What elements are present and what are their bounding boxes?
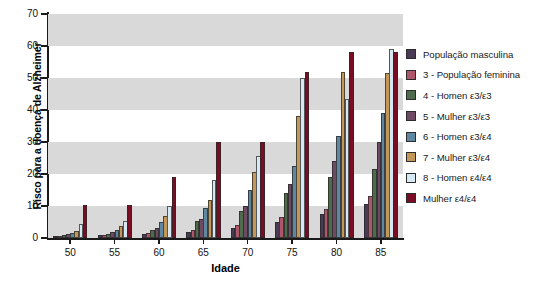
legend-item: Mulher ε4/ε4 xyxy=(406,188,545,209)
y-axis-tick-label: 0 xyxy=(0,232,38,243)
legend-label: 7 - Mulher ε3/ε4 xyxy=(423,152,490,163)
legend-item: 4 - Homen ε3/ε3 xyxy=(406,85,545,106)
bar xyxy=(127,205,132,238)
y-axis-tick-label: 30 xyxy=(0,136,38,147)
legend-item: 8 - Homen ε4/ε4 xyxy=(406,168,545,189)
x-axis-tick-label: 80 xyxy=(321,247,351,258)
legend-swatch xyxy=(406,152,416,162)
legend-item: 5 - Mulher ε3/ε3 xyxy=(406,106,545,127)
bar xyxy=(216,142,221,238)
x-axis-tick-label: 50 xyxy=(55,247,85,258)
y-axis-tick xyxy=(41,77,47,79)
x-axis-tick xyxy=(203,238,205,244)
bar xyxy=(305,72,310,238)
legend-label: População masculina xyxy=(423,49,513,60)
bar-group xyxy=(98,14,132,238)
bar xyxy=(349,52,354,238)
y-axis-tick-label: 40 xyxy=(0,104,38,115)
y-axis-tick xyxy=(41,173,47,175)
bar xyxy=(83,205,88,238)
bar-group xyxy=(53,14,87,238)
legend-item: 7 - Mulher ε3/ε4 xyxy=(406,147,545,168)
x-axis-tick-label: 70 xyxy=(233,247,263,258)
bar-group xyxy=(364,14,398,238)
x-axis-tick xyxy=(158,238,160,244)
bar-group xyxy=(186,14,220,238)
bar-group xyxy=(320,14,354,238)
bar-group xyxy=(275,14,309,238)
legend-swatch xyxy=(406,111,416,121)
x-axis-tick xyxy=(336,238,338,244)
x-axis-tick-label: 85 xyxy=(366,247,396,258)
legend-label: 5 - Mulher ε3/ε3 xyxy=(423,111,490,122)
y-axis-tick-label: 10 xyxy=(0,200,38,211)
legend-swatch xyxy=(406,173,416,183)
x-axis-tick xyxy=(291,238,293,244)
y-axis-tick-label: 60 xyxy=(0,40,38,51)
y-axis-tick xyxy=(41,109,47,111)
legend-swatch xyxy=(406,132,416,142)
alzheimer-risk-bar-chart: Risco para a doença de Alzheimer 0102030… xyxy=(0,0,545,284)
y-axis-tick-label: 50 xyxy=(0,72,38,83)
legend-swatch xyxy=(406,90,416,100)
y-axis-tick xyxy=(41,237,47,239)
x-axis-tick xyxy=(114,238,116,244)
legend-swatch xyxy=(406,193,416,203)
x-axis-tick-label: 55 xyxy=(100,247,130,258)
x-axis-tick xyxy=(69,238,71,244)
legend-item: 6 - Homen ε3/ε4 xyxy=(406,126,545,147)
x-axis-tick xyxy=(380,238,382,244)
legend-swatch xyxy=(406,49,416,59)
x-axis-title: Idade xyxy=(48,262,403,274)
legend-label: 8 - Homen ε4/ε4 xyxy=(423,172,492,183)
legend-item: 3 - População feminina xyxy=(406,65,545,86)
y-axis-tick xyxy=(41,141,47,143)
plot-area xyxy=(48,14,403,238)
x-axis-tick xyxy=(247,238,249,244)
y-axis-tick-label: 70 xyxy=(0,8,38,19)
bar-group xyxy=(231,14,265,238)
bar-groups xyxy=(48,14,403,238)
y-axis-tick xyxy=(41,13,47,15)
bar xyxy=(393,52,398,238)
legend-label: 3 - População feminina xyxy=(423,69,520,80)
legend-label: 6 - Homen ε3/ε4 xyxy=(423,131,492,142)
y-axis-tick-label: 20 xyxy=(0,168,38,179)
x-axis-tick-label: 65 xyxy=(188,247,218,258)
bar xyxy=(172,177,177,238)
bar-group xyxy=(142,14,176,238)
legend-item: População masculina xyxy=(406,44,545,65)
y-axis-tick xyxy=(41,205,47,207)
legend: População masculina3 - População feminin… xyxy=(406,44,545,209)
x-axis-tick-label: 60 xyxy=(144,247,174,258)
legend-label: 4 - Homen ε3/ε3 xyxy=(423,90,492,101)
bar xyxy=(260,142,265,238)
legend-swatch xyxy=(406,70,416,80)
y-axis-tick xyxy=(41,45,47,47)
x-axis-tick-label: 75 xyxy=(277,247,307,258)
legend-label: Mulher ε4/ε4 xyxy=(423,193,476,204)
x-axis-line xyxy=(47,238,404,240)
